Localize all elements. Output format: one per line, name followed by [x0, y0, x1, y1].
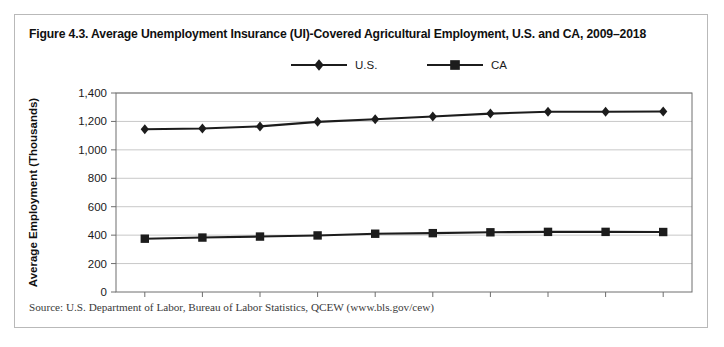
- legend-item-us[interactable]: U.S.: [291, 59, 377, 71]
- figure-container: Figure 4.3. Average Unemployment Insuran…: [14, 14, 708, 328]
- data-point-marker: [198, 124, 206, 134]
- data-point-marker: [141, 234, 149, 242]
- y-axis-tick-label: 1,000: [78, 144, 107, 156]
- y-axis-tick-label: 1,400: [78, 87, 107, 99]
- data-point-marker: [429, 111, 437, 121]
- series-line: [145, 111, 663, 129]
- data-point-marker: [256, 121, 264, 131]
- data-point-marker: [544, 228, 552, 236]
- data-point-marker: [602, 107, 610, 117]
- data-point-marker: [486, 228, 494, 236]
- y-axis-tick-label: 800: [88, 172, 107, 184]
- y-axis-tick-label: 0: [101, 286, 107, 298]
- y-axis-tick-label: 600: [88, 201, 107, 213]
- data-point-marker: [371, 114, 379, 124]
- data-point-marker: [198, 233, 206, 241]
- line-chart: 02004006008001,0001,2001,400200920102011…: [15, 43, 707, 301]
- source-note: Source: U.S. Department of Labor, Bureau…: [29, 301, 689, 313]
- y-axis-title: Average Employment (Thousands): [27, 98, 39, 288]
- legend-marker: [450, 60, 460, 70]
- figure-title: Figure 4.3. Average Unemployment Insuran…: [29, 27, 689, 41]
- chart-plot-area: 02004006008001,0001,2001,400200920102011…: [15, 43, 707, 301]
- data-point-marker: [601, 228, 609, 236]
- plot-frame: [116, 93, 692, 292]
- legend-item-ca[interactable]: CA: [427, 59, 507, 71]
- data-point-marker: [659, 106, 667, 116]
- legend-marker: [314, 59, 323, 71]
- data-point-marker: [659, 228, 667, 236]
- legend-label: U.S.: [355, 59, 377, 71]
- y-axis-tick-label: 400: [88, 229, 107, 241]
- data-point-marker: [371, 230, 379, 238]
- data-point-marker: [314, 117, 322, 127]
- legend-label: CA: [491, 59, 507, 71]
- data-point-marker: [141, 124, 149, 134]
- series-us: [141, 106, 668, 134]
- y-axis-tick-label: 200: [88, 258, 107, 270]
- data-point-marker: [544, 107, 552, 117]
- data-point-marker: [313, 231, 321, 239]
- data-point-marker: [429, 229, 437, 237]
- data-point-marker: [256, 232, 264, 240]
- data-point-marker: [486, 109, 494, 119]
- y-axis-tick-label: 1,200: [78, 115, 107, 127]
